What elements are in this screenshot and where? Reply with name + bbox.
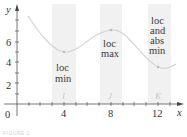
annotation-loc-min-2: min [55, 73, 72, 84]
y-tick-label-2: 2 [6, 80, 11, 91]
x-tick-label-12: 12 [152, 108, 163, 119]
interval-band-i [52, 4, 76, 104]
abs-min-point [157, 66, 160, 69]
x-axis-arrow-icon [177, 102, 184, 106]
y-tick-label-6: 6 [6, 37, 11, 48]
origin-label: 0 [5, 109, 10, 120]
extrema-chart: y x 0 6 4 2 4 8 12 I J K loc min loc max… [0, 0, 187, 137]
y-axis-arrow-icon [15, 4, 19, 11]
band-label-k: K [154, 91, 162, 101]
annotation-loc-min-1: loc [56, 62, 69, 73]
x-tick-label-4: 4 [61, 108, 67, 119]
y-axis-label: y [5, 4, 11, 15]
local-max-point [110, 29, 113, 32]
local-min-point [63, 51, 66, 54]
annotation-abs-min-4: min [149, 45, 166, 56]
x-tick-label-8: 8 [108, 108, 113, 119]
figure-caption: FIGURE 1 [3, 130, 30, 136]
x-axis-label: x [176, 107, 182, 118]
y-tick-label-4: 4 [6, 57, 12, 68]
annotation-loc-max-2: max [101, 48, 120, 59]
